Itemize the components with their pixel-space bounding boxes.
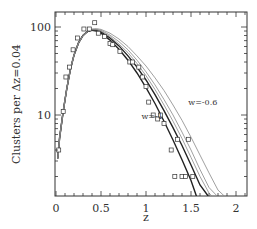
curve-label: w=-1 [142,112,163,121]
data-point-marker [144,85,148,89]
data-point-marker [176,137,180,141]
y-tick-label: 10 [37,109,51,122]
curve-w-0-9 [58,30,208,196]
data-point-marker [131,60,135,64]
curve-label: w=-0.6 [188,98,217,107]
curve-w-0-8 [58,30,212,196]
data-point-marker [184,175,188,179]
data-point-marker [76,36,80,40]
data-point-marker [64,75,68,79]
data-point-marker [186,137,190,141]
curve-labels: w=-1w=-0.6 [142,98,218,121]
x-tick-label: 0 [53,202,60,215]
y-axis-title: Clusters per Δz=0.04 [10,44,23,164]
data-point-marker [140,75,144,79]
data-point-marker [147,100,151,104]
data-point-marker [169,148,173,152]
data-point-marker [93,21,97,25]
y-tick-label: 100 [30,21,51,34]
data-point-marker [68,65,72,69]
data-point-marker [118,49,122,53]
data-point-marker [71,48,75,52]
data-point-marker [191,175,195,179]
data-point-marker [61,109,65,113]
data-point-marker [82,27,86,31]
x-tick-label: 1.5 [182,202,200,215]
data-point-marker [162,122,166,126]
x-tick-label: 2 [233,202,240,215]
x-axis-title: z [143,211,149,224]
data-point-marker [173,175,177,179]
data-point-marker [87,27,91,31]
data-point-marker [103,35,107,39]
data-point-marker [96,31,100,35]
chart: 00.511.5210100 z Clusters per Δz=0.04 w=… [0,0,257,229]
data-point-marker [111,43,115,47]
data-point-marker [137,65,141,69]
x-tick-label: 0.5 [92,202,110,215]
